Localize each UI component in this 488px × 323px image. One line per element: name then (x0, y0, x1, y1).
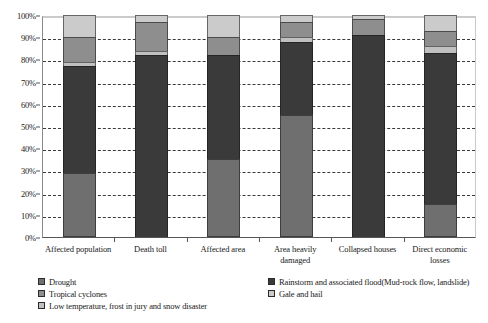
bar-segment[interactable] (280, 115, 313, 237)
legend-item[interactable]: Tropical cyclones (38, 288, 207, 300)
x-axis-tick-mark (404, 238, 405, 242)
y-axis-tick-mark (36, 238, 40, 239)
legend-swatch-icon (268, 290, 275, 297)
legend-swatch-icon (38, 278, 45, 285)
bar-segment[interactable] (135, 55, 168, 237)
bar-group[interactable] (63, 17, 96, 237)
y-axis-tick-label: 20% (21, 189, 36, 199)
y-axis-tick-label: 90% (21, 33, 36, 43)
x-axis-tick-label: Direct economic losses (404, 244, 476, 265)
y-axis-tick-label: 70% (21, 78, 36, 88)
y-axis-tick-mark (36, 215, 40, 216)
x-axis-tick-label: Death toll (114, 244, 186, 255)
x-axis-tick-label: Area heavily damaged (259, 244, 331, 265)
legend-item[interactable]: Rainstorm and associated flood(Mud-rock … (268, 276, 469, 288)
bars-layer (43, 17, 475, 237)
legend-column-left: DroughtTropical cyclonesLow temperature,… (38, 276, 207, 312)
y-axis-tick-mark (36, 149, 40, 150)
bar-segment[interactable] (424, 15, 457, 31)
stacked-bar[interactable] (63, 17, 96, 237)
y-axis-tick-label: 80% (21, 55, 36, 65)
y-axis-tick-label: 0% (25, 233, 36, 243)
x-axis-tick-label: Collapsed houses (331, 244, 403, 255)
bar-segment[interactable] (135, 15, 168, 22)
bar-segment[interactable] (63, 37, 96, 61)
bar-segment[interactable] (424, 46, 457, 53)
legend-item-label: Drought (49, 277, 76, 287)
bar-segment[interactable] (135, 22, 168, 51)
y-axis-tick-label: 10% (21, 211, 36, 221)
bar-segment[interactable] (352, 19, 385, 35)
y-axis-tick-mark (36, 82, 40, 83)
bar-segment[interactable] (63, 15, 96, 37)
legend-item[interactable]: Drought (38, 276, 207, 288)
y-axis-tick-mark (36, 193, 40, 194)
legend-item-label: Low temperature, frost in jury and snow … (49, 301, 207, 311)
bar-segment[interactable] (207, 55, 240, 159)
chart-legend: DroughtTropical cyclonesLow temperature,… (0, 276, 488, 316)
x-axis-tick-mark (114, 238, 115, 242)
legend-swatch-icon (268, 278, 275, 285)
y-axis-tick-mark (36, 60, 40, 61)
bar-segment[interactable] (207, 15, 240, 37)
stacked-bar[interactable] (207, 17, 240, 237)
bar-segment[interactable] (280, 42, 313, 115)
legend-item-label: Gale and hail (279, 289, 322, 299)
bar-segment[interactable] (280, 22, 313, 38)
y-axis: 0%10%20%30%40%50%60%70%80%90%100% (0, 16, 40, 238)
y-axis-tick-label: 40% (21, 144, 36, 154)
y-axis-tick-label: 50% (21, 122, 36, 132)
y-axis-tick-mark (36, 127, 40, 128)
legend-item-label: Tropical cyclones (49, 289, 107, 299)
y-axis-tick-mark (36, 38, 40, 39)
bar-segment[interactable] (63, 66, 96, 173)
x-axis-tick-mark (259, 238, 260, 242)
x-axis-tick-label: Affected population (42, 244, 114, 255)
y-axis-tick-label: 60% (21, 100, 36, 110)
stacked-bar[interactable] (135, 17, 168, 237)
bar-segment[interactable] (352, 35, 385, 237)
stacked-bar[interactable] (352, 17, 385, 237)
bar-segment[interactable] (280, 15, 313, 22)
stacked-bar-chart-figure: 0%10%20%30%40%50%60%70%80%90%100% Affect… (0, 0, 488, 323)
legend-column-right: Rainstorm and associated flood(Mud-rock … (268, 276, 469, 300)
bar-segment[interactable] (63, 173, 96, 237)
bar-segment[interactable] (424, 204, 457, 237)
bar-group[interactable] (280, 17, 313, 237)
y-axis-tick-mark (36, 16, 40, 17)
stacked-bar[interactable] (280, 17, 313, 237)
bar-segment[interactable] (207, 37, 240, 55)
plot-area (42, 16, 476, 238)
legend-item[interactable]: Gale and hail (268, 288, 469, 300)
y-axis-tick-label: 100% (17, 11, 36, 21)
y-axis-tick-mark (36, 104, 40, 105)
x-axis-tick-mark (187, 238, 188, 242)
bar-segment[interactable] (424, 53, 457, 204)
legend-swatch-icon (38, 290, 45, 297)
bar-group[interactable] (424, 17, 457, 237)
legend-swatch-icon (38, 302, 45, 309)
legend-item-label: Rainstorm and associated flood(Mud-rock … (279, 277, 469, 287)
y-axis-tick-label: 30% (21, 166, 36, 176)
bar-group[interactable] (352, 17, 385, 237)
legend-item[interactable]: Low temperature, frost in jury and snow … (38, 300, 207, 312)
bar-segment[interactable] (207, 159, 240, 237)
stacked-bar[interactable] (424, 17, 457, 237)
y-axis-tick-mark (36, 171, 40, 172)
x-axis: Affected populationDeath tollAffected ar… (42, 241, 476, 269)
bar-group[interactable] (135, 17, 168, 237)
bar-group[interactable] (207, 17, 240, 237)
x-axis-tick-label: Affected area (187, 244, 259, 255)
x-axis-tick-mark (331, 238, 332, 242)
bar-segment[interactable] (424, 31, 457, 47)
